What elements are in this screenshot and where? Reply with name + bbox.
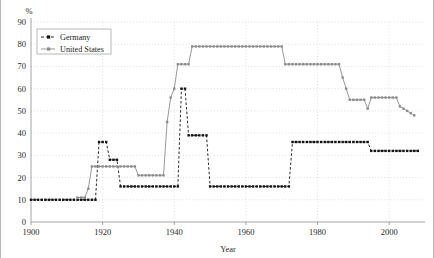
data-point-marker — [130, 185, 132, 187]
data-point-marker — [263, 45, 265, 47]
data-point-marker — [345, 141, 347, 143]
data-point-marker — [116, 165, 118, 167]
data-point-marker — [413, 150, 415, 152]
data-point-marker — [76, 199, 78, 201]
data-point-marker — [399, 105, 401, 107]
data-point-marker — [363, 141, 365, 143]
chart-figure: 0102030405060708090%19001920194019601980… — [0, 0, 434, 258]
data-point-marker — [277, 45, 279, 47]
data-point-marker — [327, 63, 329, 65]
data-point-marker — [409, 150, 411, 152]
data-point-marker — [327, 141, 329, 143]
data-point-marker — [270, 45, 272, 47]
data-point-marker — [284, 63, 286, 65]
data-point-marker — [69, 199, 71, 201]
data-point-marker — [112, 165, 114, 167]
data-point-marker — [377, 96, 379, 98]
data-point-marker — [241, 45, 243, 47]
data-point-marker — [152, 185, 154, 187]
data-point-marker — [316, 63, 318, 65]
data-point-marker — [159, 174, 161, 176]
data-point-marker — [220, 185, 222, 187]
data-point-marker — [137, 174, 139, 176]
data-point-marker — [62, 199, 64, 201]
data-point-marker — [388, 96, 390, 98]
data-point-marker — [109, 159, 111, 161]
data-point-marker — [356, 99, 358, 101]
data-point-marker — [127, 165, 129, 167]
data-point-marker — [37, 199, 39, 201]
data-point-marker — [384, 96, 386, 98]
data-point-marker — [341, 141, 343, 143]
data-point-marker — [295, 63, 297, 65]
x-tick-label: 1980 — [309, 227, 326, 237]
data-point-marker — [238, 45, 240, 47]
data-point-marker — [255, 45, 257, 47]
data-point-marker — [148, 174, 150, 176]
data-point-marker — [324, 141, 326, 143]
data-point-marker — [94, 165, 96, 167]
data-point-marker — [134, 165, 136, 167]
legend-swatch-marker — [47, 47, 50, 50]
data-point-marker — [119, 165, 121, 167]
data-point-marker — [349, 141, 351, 143]
data-point-marker — [202, 45, 204, 47]
data-point-marker — [324, 63, 326, 65]
data-point-marker — [191, 134, 193, 136]
data-point-marker — [109, 165, 111, 167]
data-point-marker — [381, 150, 383, 152]
data-point-marker — [169, 96, 171, 98]
data-point-marker — [288, 63, 290, 65]
data-point-marker — [187, 134, 189, 136]
data-point-marker — [313, 63, 315, 65]
data-point-marker — [41, 199, 43, 201]
data-point-marker — [281, 45, 283, 47]
data-point-marker — [320, 141, 322, 143]
data-point-marker — [205, 45, 207, 47]
data-point-marker — [162, 174, 164, 176]
data-point-marker — [381, 96, 383, 98]
y-tick-label: 20 — [18, 173, 27, 183]
legend-label: United States — [60, 45, 104, 54]
y-tick-label: 50 — [18, 106, 27, 116]
data-point-marker — [184, 63, 186, 65]
data-point-marker — [255, 185, 257, 187]
data-point-marker — [245, 45, 247, 47]
data-point-marker — [87, 199, 89, 201]
data-point-marker — [320, 63, 322, 65]
data-point-marker — [227, 45, 229, 47]
data-point-marker — [363, 99, 365, 101]
data-point-marker — [266, 45, 268, 47]
data-point-marker — [384, 150, 386, 152]
data-point-marker — [141, 185, 143, 187]
data-point-marker — [230, 185, 232, 187]
data-point-marker — [48, 199, 50, 201]
data-point-marker — [359, 99, 361, 101]
data-point-marker — [309, 63, 311, 65]
data-point-marker — [338, 63, 340, 65]
data-point-marker — [245, 185, 247, 187]
data-point-marker — [288, 185, 290, 187]
data-point-marker — [298, 63, 300, 65]
data-point-marker — [270, 185, 272, 187]
data-point-marker — [223, 185, 225, 187]
data-point-marker — [266, 185, 268, 187]
y-tick-label: 30 — [18, 150, 27, 160]
data-point-marker — [248, 185, 250, 187]
data-point-marker — [119, 185, 121, 187]
legend-label: Germany — [60, 33, 91, 42]
data-point-marker — [159, 185, 161, 187]
data-point-marker — [123, 185, 125, 187]
data-point-marker — [116, 159, 118, 161]
data-point-marker — [105, 141, 107, 143]
data-point-marker — [162, 185, 164, 187]
data-point-marker — [173, 185, 175, 187]
data-point-marker — [248, 45, 250, 47]
data-point-marker — [127, 185, 129, 187]
data-point-marker — [284, 185, 286, 187]
data-point-marker — [216, 45, 218, 47]
data-point-marker — [241, 185, 243, 187]
x-tick-label: 1940 — [166, 227, 183, 237]
data-point-marker — [73, 199, 75, 201]
data-point-marker — [101, 141, 103, 143]
